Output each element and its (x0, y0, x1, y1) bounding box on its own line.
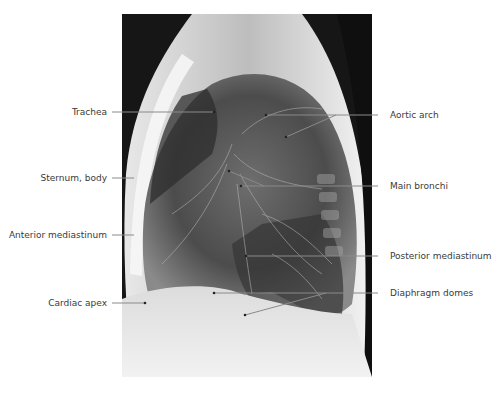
label-sternum-body: Sternum, body (41, 173, 107, 184)
label-trachea: Trachea (72, 107, 107, 118)
label-anterior-mediastinum: Anterior mediastinum (9, 230, 107, 241)
xray-image (122, 14, 372, 377)
label-diaphragm-domes: Diaphragm domes (390, 288, 473, 299)
label-main-bronchi: Main bronchi (390, 181, 448, 192)
label-posterior-mediastinum: Posterior mediastinum (390, 251, 492, 262)
chest-xray-lateral (122, 14, 372, 377)
label-cardiac-apex: Cardiac apex (48, 298, 107, 309)
label-aortic-arch: Aortic arch (390, 110, 439, 121)
